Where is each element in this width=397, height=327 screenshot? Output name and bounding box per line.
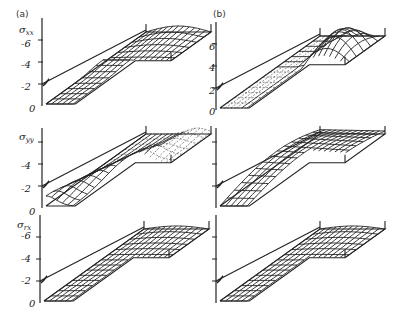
mesh-line <box>340 36 379 61</box>
tick-label: 0 <box>29 206 36 217</box>
mesh-line <box>55 228 155 302</box>
mesh-line <box>57 134 157 200</box>
guide-line <box>216 227 320 281</box>
mesh-line <box>68 27 168 104</box>
mesh-line <box>236 227 336 301</box>
axis-title-syy: σyy <box>19 131 35 144</box>
tick-label: -4 <box>21 59 31 70</box>
surface-plots <box>36 18 385 303</box>
mesh-line <box>60 227 160 301</box>
mesh-line <box>225 228 325 301</box>
base-outline <box>44 229 209 301</box>
stress-surface-figure: (a) (b) σxx σyy σrx -6 -4 -2 0 6 4 2 0 -… <box>0 0 397 327</box>
tick-label: -4 <box>21 160 31 171</box>
axis-subscript: xx <box>26 29 34 37</box>
mesh-line <box>241 183 268 184</box>
guide-line <box>42 132 146 186</box>
tick-label: -6 <box>21 230 31 241</box>
mesh-line <box>51 30 151 104</box>
tick-label: -2 <box>21 275 31 286</box>
axis-subscript: yy <box>25 136 35 144</box>
tick-label: 0 <box>29 103 36 114</box>
base-outline <box>220 229 385 301</box>
tick-label: 6 <box>209 41 216 52</box>
tick-label: -2 <box>21 183 31 194</box>
tick-label: -6 <box>21 38 31 49</box>
mesh-line <box>68 134 168 205</box>
tick-label: 0 <box>29 298 36 309</box>
mesh-line <box>49 228 149 301</box>
mesh-line <box>247 36 347 108</box>
mesh-line <box>66 226 166 301</box>
mesh-line <box>324 226 363 257</box>
surface-panel-b-sxx <box>212 22 385 110</box>
surface-panel-b-syy <box>212 126 385 208</box>
mesh-line <box>148 226 187 257</box>
surface-panel-a-sxx <box>38 18 211 106</box>
surface-panel-a-syy <box>38 126 211 208</box>
panel-label-b: (b) <box>213 9 226 19</box>
mesh-line <box>73 26 173 104</box>
surface-panel-b-srx <box>212 215 385 303</box>
mesh-line <box>234 190 261 191</box>
mesh-line <box>110 150 175 160</box>
mesh-line <box>62 134 162 203</box>
axis-title-sxx: σxx <box>19 24 34 37</box>
base-outline <box>46 32 211 104</box>
guide-line <box>40 227 144 281</box>
mesh-line <box>242 226 342 301</box>
tick-label: 0 <box>209 106 216 117</box>
panel-label-a: (a) <box>16 9 29 19</box>
surface-panel-a-srx <box>36 215 209 303</box>
tick-label: 4 <box>208 62 215 73</box>
tick-label: -2 <box>21 81 31 92</box>
mesh-line <box>242 36 342 108</box>
mesh-line <box>231 228 331 302</box>
tick-label: 2 <box>208 85 215 96</box>
tick-label: -4 <box>21 253 31 264</box>
base-outline <box>220 134 385 206</box>
